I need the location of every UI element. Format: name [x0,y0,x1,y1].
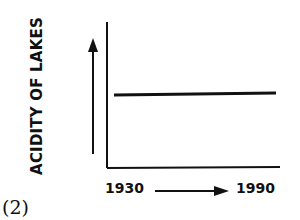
y-axis-label: ACIDITY OF LAKES [28,17,46,175]
y-arrow-head-icon [88,38,98,52]
x-axis [107,167,280,168]
panel-label: (2) [2,196,29,218]
data-line [114,93,276,95]
x-tick-end: 1990 [236,180,275,196]
x-arrow-head-icon [214,186,229,196]
x-tick-start: 1930 [105,180,144,196]
